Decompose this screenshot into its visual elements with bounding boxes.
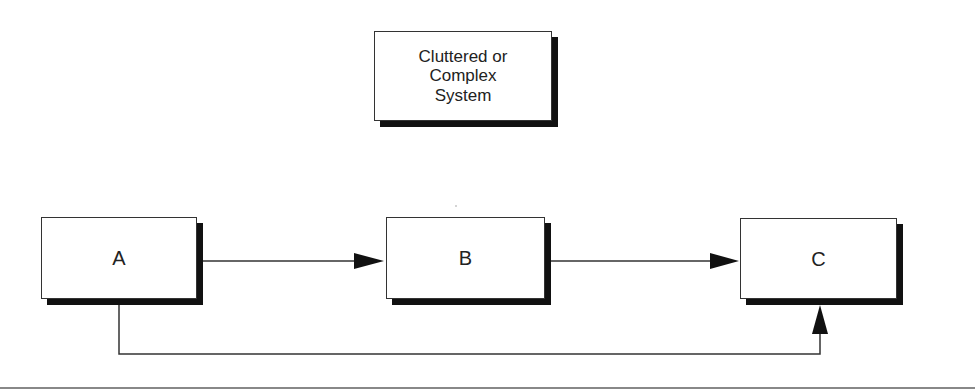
bottom-divider [0,387,975,389]
arrowhead-to-b-icon [354,253,384,269]
arrowhead-to-c-icon [710,253,739,269]
speck [455,205,456,206]
edge-a-to-c-below [119,305,820,354]
connector-lines [0,0,975,391]
arrowhead-up-to-c-icon [812,305,828,334]
